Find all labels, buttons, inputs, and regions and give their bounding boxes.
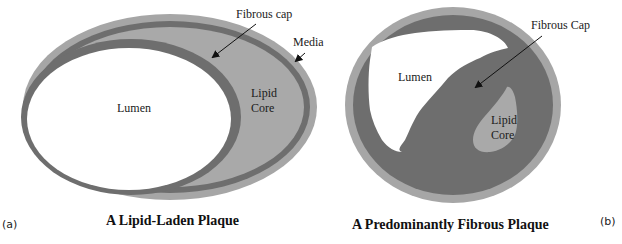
media-arrow — [296, 53, 305, 61]
lipid-core-label-line1: Lipid — [251, 86, 277, 100]
panel-b-letter: (b) — [600, 215, 616, 228]
panel-b-title: A Predominantly Fibrous Plaque — [352, 217, 549, 232]
media-label: Media — [293, 35, 324, 49]
lumen-label: Lumen — [398, 70, 432, 84]
panel-b-diagram: Lumen Lipid Core Fibrous Cap — [345, 7, 590, 203]
lipid-core-label-line1: Lipid — [491, 113, 517, 127]
panel-a-title: A Lipid-Laden Plaque — [106, 213, 239, 228]
fibrous-cap-label: Fibrous Cap — [531, 18, 590, 32]
lipid-core-label-line2: Core — [251, 101, 274, 115]
lumen — [27, 48, 231, 190]
lumen-label: Lumen — [117, 101, 151, 115]
fibrous-cap-label: Fibrous cap — [236, 7, 292, 21]
panel-a-letter: (a) — [2, 218, 17, 231]
lipid-core-label-line2: Core — [491, 128, 514, 142]
panel-a-diagram: Lumen Lipid Core Fibrous cap Media — [21, 7, 324, 200]
plaque-diagram: Lumen Lipid Core Fibrous cap Media Lumen… — [0, 0, 622, 244]
